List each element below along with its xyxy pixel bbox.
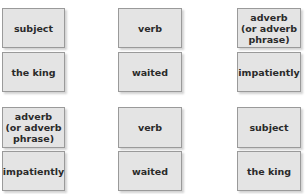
label-card-subject: subject <box>237 107 301 148</box>
example-card-verb: waited <box>118 52 182 92</box>
example-card-subject: the king <box>237 151 301 191</box>
card-text: subject <box>249 122 288 133</box>
example-card-adverb: impatiently <box>237 52 301 92</box>
example-card-verb: waited <box>118 151 182 191</box>
card-text: verb <box>138 23 162 34</box>
card-text: verb <box>138 122 162 133</box>
card-text: waited <box>132 67 168 78</box>
card-text: impatiently <box>3 166 64 177</box>
card-text: the king <box>247 166 291 177</box>
example-card-subject: the king <box>2 52 65 92</box>
label-card-adverb: adverb (or adverb phrase) <box>237 8 301 48</box>
label-card-subject: subject <box>2 8 65 48</box>
card-text: subject <box>14 23 53 34</box>
example-card-adverb: impatiently <box>2 151 65 191</box>
label-card-adverb: adverb (or adverb phrase) <box>2 107 65 148</box>
card-text: impatiently <box>238 67 299 78</box>
card-text: adverb (or adverb phrase) <box>5 111 61 144</box>
label-card-verb: verb <box>118 107 182 148</box>
card-text: waited <box>132 166 168 177</box>
card-text: the king <box>11 67 55 78</box>
label-card-verb: verb <box>118 8 182 48</box>
card-text: adverb (or adverb phrase) <box>241 12 297 45</box>
